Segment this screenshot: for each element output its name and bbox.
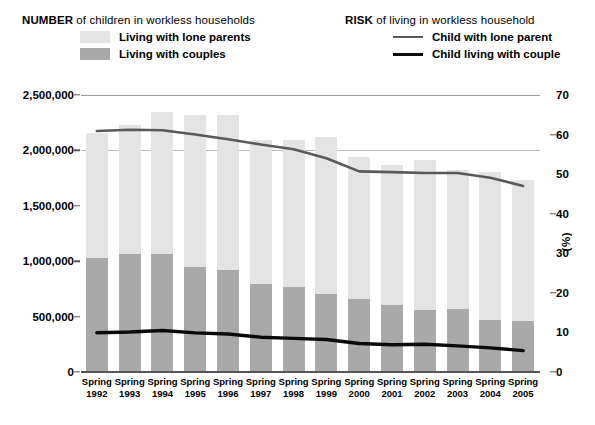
- x-axis-tick-label: Spring2002: [408, 376, 441, 399]
- x-axis-tick-season: Spring: [343, 376, 376, 388]
- x-axis-tick-label: Spring1996: [212, 376, 245, 399]
- y-axis-left-tick-mark: [74, 260, 80, 261]
- x-axis-tick-season: Spring: [212, 376, 245, 388]
- line-swatch-couple-icon: [393, 53, 423, 56]
- x-axis-tick-year: 2003: [441, 388, 474, 400]
- x-axis-tick-year: 2002: [408, 388, 441, 400]
- y-axis-right-tick-mark: [550, 134, 556, 135]
- legend-item-couples: Living with couples: [80, 48, 255, 60]
- x-axis-tick-season: Spring: [408, 376, 441, 388]
- x-axis-tick-label: Spring1994: [146, 376, 179, 399]
- y-axis-right-tick-mark: [550, 292, 556, 293]
- legend-risk-title: RISK of living in workless household: [345, 14, 560, 26]
- legend-label-couples: Living with couples: [119, 48, 226, 60]
- x-axis-tick-year: 1994: [146, 388, 179, 400]
- plot-area: [81, 95, 540, 372]
- x-axis-tick-season: Spring: [441, 376, 474, 388]
- x-axis-tick-year: 2005: [507, 388, 540, 400]
- x-axis-tick-label: Spring1992: [81, 376, 114, 399]
- y-axis-left-tick-label: 2,000,000: [23, 144, 74, 156]
- x-axis-tick-season: Spring: [310, 376, 343, 388]
- x-axis-tick-label: Spring2004: [474, 376, 507, 399]
- y-axis-right-tick-mark: [550, 371, 556, 372]
- legend-label-risk-lone-parent: Child with lone parent: [432, 31, 552, 43]
- x-axis-tick-label: Spring2005: [507, 376, 540, 399]
- lines-layer: [81, 95, 540, 372]
- legend-number-title-strong: NUMBER: [22, 14, 73, 26]
- y-axis-right-title: (%): [560, 232, 572, 251]
- bar-swatch-couples-icon: [80, 48, 110, 60]
- x-axis-tick-season: Spring: [81, 376, 114, 388]
- x-axis-tick-year: 2004: [474, 388, 507, 400]
- legend-number: NUMBER of children in workless household…: [22, 14, 255, 60]
- x-axis-tick-label: Spring1995: [179, 376, 212, 399]
- y-axis-right-tick-mark: [550, 213, 556, 214]
- x-axis-tick-season: Spring: [376, 376, 409, 388]
- y-axis-left-tick-mark: [74, 371, 80, 372]
- x-axis-tick-season: Spring: [474, 376, 507, 388]
- x-axis-tick-year: 2000: [343, 388, 376, 400]
- y-axis-right-tick-label: 60: [556, 129, 569, 141]
- x-axis-tick-year: 1993: [113, 388, 146, 400]
- legend-number-title-rest: of children in workless households: [73, 14, 255, 26]
- y-axis-left-tick-mark: [74, 316, 80, 317]
- line-swatch-lone-parent-icon: [393, 36, 423, 38]
- x-axis-tick-year: 1998: [277, 388, 310, 400]
- x-axis-tick-year: 2001: [376, 388, 409, 400]
- legend-item-lone-parents: Living with lone parents: [80, 31, 255, 43]
- y-axis-left-tick-label: 1,000,000: [23, 255, 74, 267]
- y-axis-right-tick-label: 20: [556, 287, 569, 299]
- y-axis-left-tick-mark: [74, 205, 80, 206]
- bar-swatch-lone-parents-icon: [80, 31, 110, 43]
- y-axis-left-tick-label: 1,500,000: [23, 200, 74, 212]
- x-axis-tick-season: Spring: [113, 376, 146, 388]
- x-axis-tick-year: 1997: [244, 388, 277, 400]
- x-axis-tick-year: 1992: [81, 388, 114, 400]
- legend-label-risk-couple: Child living with couple: [432, 48, 560, 60]
- y-axis-right-tick-label: 0: [556, 366, 562, 378]
- x-axis-tick-label: Spring2003: [441, 376, 474, 399]
- y-axis-left-tick-label: 2,500,000: [23, 89, 74, 101]
- legend-item-risk-lone-parent: Child with lone parent: [393, 31, 560, 43]
- x-axis-tick-label: Spring2001: [376, 376, 409, 399]
- y-axis-right-tick-label: 70: [556, 89, 569, 101]
- x-axis-tick-label: Spring1998: [277, 376, 310, 399]
- x-axis-tick-label: Spring1999: [310, 376, 343, 399]
- legend-item-risk-couple: Child living with couple: [393, 48, 560, 60]
- x-axis-baseline: [81, 371, 540, 373]
- legend-label-lone-parents: Living with lone parents: [119, 31, 251, 43]
- x-axis-tick-season: Spring: [244, 376, 277, 388]
- y-axis-right-tick-label: 10: [556, 326, 569, 338]
- y-axis-right-tick-label: 40: [556, 208, 569, 220]
- x-axis-tick-season: Spring: [146, 376, 179, 388]
- y-axis-left-tick-label: 500,000: [32, 311, 74, 323]
- x-axis-tick-label: Spring2000: [343, 376, 376, 399]
- legend-number-title: NUMBER of children in workless household…: [22, 14, 255, 26]
- chart-page: NUMBER of children in workless household…: [0, 0, 595, 425]
- legend-risk-title-rest: of living in workless household: [373, 14, 535, 26]
- x-axis-tick-year: 1995: [179, 388, 212, 400]
- y-axis-left: 2,500,0002,000,0001,500,0001,000,000500,…: [0, 95, 74, 372]
- y-axis-left-tick-mark: [74, 150, 80, 151]
- x-axis-tick-label: Spring1997: [244, 376, 277, 399]
- legend-risk-title-strong: RISK: [345, 14, 373, 26]
- y-axis-left-tick-mark: [74, 94, 80, 95]
- y-axis-right-tick-label: 50: [556, 168, 569, 180]
- x-axis-tick-season: Spring: [507, 376, 540, 388]
- legend-risk: RISK of living in workless household Chi…: [345, 14, 560, 60]
- x-axis-tick-year: 1999: [310, 388, 343, 400]
- x-axis-tick-label: Spring1993: [113, 376, 146, 399]
- x-axis: Spring1992Spring1993Spring1994Spring1995…: [81, 376, 540, 410]
- line-risk-lone-parent: [97, 130, 523, 186]
- x-axis-tick-season: Spring: [277, 376, 310, 388]
- line-risk-couple: [97, 330, 523, 350]
- x-axis-tick-year: 1996: [212, 388, 245, 400]
- x-axis-tick-season: Spring: [179, 376, 212, 388]
